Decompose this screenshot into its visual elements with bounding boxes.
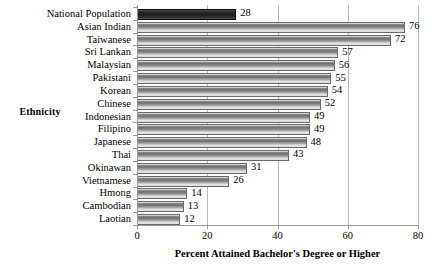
- bar: [138, 201, 184, 212]
- bar: [138, 124, 310, 135]
- x-axis-title: Percent Attained Bachelor's Degree or Hi…: [137, 248, 418, 259]
- bar-value-label: 57: [342, 46, 353, 57]
- y-axis-tick: [133, 110, 137, 111]
- bar: [138, 22, 405, 33]
- y-axis-category-label: Hmong: [0, 187, 131, 198]
- x-axis-tick: [418, 225, 419, 229]
- bar-value-label: 56: [339, 59, 350, 70]
- y-axis-tick: [133, 7, 137, 8]
- bar-value-label: 14: [191, 187, 202, 198]
- bar-value-label: 72: [395, 33, 406, 44]
- x-axis-tick-labels: 020406080: [137, 230, 418, 244]
- bar-chart: Ethnicity National PopulationAsian India…: [0, 0, 445, 268]
- y-axis-tick: [133, 122, 137, 123]
- y-axis-category-label: Vietnamese: [0, 175, 131, 186]
- y-axis-category-label: National Population: [0, 8, 131, 19]
- bar: [138, 137, 307, 148]
- y-axis-category-labels: National PopulationAsian IndianTaiwanese…: [0, 7, 131, 225]
- bar: [138, 35, 391, 46]
- y-axis-tick: [133, 135, 137, 136]
- x-axis-tick: [348, 225, 349, 229]
- bar: [138, 112, 310, 123]
- x-axis-tick-label: 20: [187, 230, 227, 241]
- y-axis-tick: [133, 174, 137, 175]
- y-axis-category-label: Thai: [0, 149, 131, 160]
- y-axis-category-label: Indonesian: [0, 111, 131, 122]
- bar-value-label: 49: [314, 110, 325, 121]
- y-axis-category-label: Chinese: [0, 98, 131, 109]
- y-axis-tick: [133, 84, 137, 85]
- y-axis-category-label: Japanese: [0, 136, 131, 147]
- y-axis-category-label: Taiwanese: [0, 34, 131, 45]
- x-axis-tick-label: 60: [328, 230, 368, 241]
- y-axis-tick: [133, 33, 137, 34]
- x-axis-tick: [137, 225, 138, 229]
- y-axis-tick: [133, 199, 137, 200]
- bar: [138, 73, 331, 84]
- y-axis-tick: [133, 97, 137, 98]
- y-axis-category-label: Cambodian: [0, 200, 131, 211]
- x-axis-tick: [278, 225, 279, 229]
- y-axis-category-label: Laotian: [0, 213, 131, 224]
- x-axis-tick-label: 80: [398, 230, 438, 241]
- bar-value-label: 55: [335, 72, 346, 83]
- y-axis-tick: [133, 58, 137, 59]
- y-axis-tick: [133, 187, 137, 188]
- y-axis-tick: [133, 20, 137, 21]
- bar-value-label: 43: [293, 148, 304, 159]
- y-axis-category-label: Malaysian: [0, 59, 131, 70]
- bar-value-label: 26: [233, 174, 244, 185]
- y-axis-category-label: Sri Lankan: [0, 46, 131, 57]
- x-axis-tick-label: 0: [117, 230, 157, 241]
- bar: [138, 214, 180, 225]
- bar-value-label: 49: [314, 123, 325, 134]
- y-axis-tick: [133, 148, 137, 149]
- y-axis-category-label: Asian Indian: [0, 21, 131, 32]
- bar: [138, 86, 328, 97]
- gridline: [418, 5, 419, 225]
- y-axis-category-label: Filipino: [0, 123, 131, 134]
- plot-area: 2876725756555452494948433126141312: [137, 7, 418, 225]
- bar: [138, 176, 229, 187]
- x-axis-tick-label: 40: [258, 230, 298, 241]
- bar-value-label: 28: [240, 7, 251, 18]
- bar: [138, 47, 338, 58]
- y-axis-tick: [133, 71, 137, 72]
- bar: [138, 9, 236, 20]
- bar: [138, 150, 289, 161]
- bar: [138, 163, 247, 174]
- bar: [138, 60, 335, 71]
- y-axis-tick: [133, 45, 137, 46]
- bar-value-label: 31: [251, 161, 262, 172]
- y-axis-tick: [133, 212, 137, 213]
- bar-value-label: 76: [409, 20, 420, 31]
- bar-value-label: 12: [184, 213, 195, 224]
- y-axis-category-label: Pakistani: [0, 72, 131, 83]
- y-axis-category-label: Korean: [0, 85, 131, 96]
- bar: [138, 188, 187, 199]
- bar-value-label: 54: [332, 84, 343, 95]
- bar-value-label: 48: [311, 136, 322, 147]
- x-axis-tick: [207, 225, 208, 229]
- bar-value-label: 52: [325, 97, 336, 108]
- y-axis-tick: [133, 161, 137, 162]
- bar: [138, 99, 321, 110]
- y-axis-category-label: Okinawan: [0, 162, 131, 173]
- bar-value-label: 13: [188, 200, 199, 211]
